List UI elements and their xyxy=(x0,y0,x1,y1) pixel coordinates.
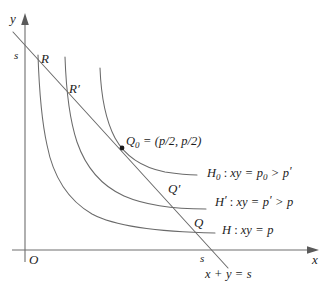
hprime-rhs: p xyxy=(287,195,293,209)
h0-p0-subscript: 0 xyxy=(263,172,268,182)
line-y: y xyxy=(226,267,232,281)
line-label-x-plus-y-equals-s: x + y = s xyxy=(205,268,252,281)
q0-name: Q xyxy=(126,134,135,148)
h0-expression: xy xyxy=(230,166,241,180)
x-axis-tick-s: s xyxy=(200,253,204,264)
h0-rhs-prime: ′ xyxy=(289,164,292,178)
q0-equals: = xyxy=(143,134,152,148)
hprime-equals: = xyxy=(251,195,260,209)
q0-subscript: 0 xyxy=(135,140,140,150)
line-equals: = xyxy=(235,267,244,281)
h0-colon: : xyxy=(224,166,227,180)
point-label-r-prime: R′ xyxy=(69,82,80,95)
h0-subscript: 0 xyxy=(216,172,221,182)
line-x: x xyxy=(205,267,211,281)
hprime-name-prime: ′ xyxy=(224,193,227,207)
curve-h0 xyxy=(100,68,197,175)
curve-label-h-prime: H′ : xy = p′ > p xyxy=(215,195,293,209)
point-label-r: R xyxy=(41,52,49,65)
curve-h-prime xyxy=(65,57,206,209)
hprime-lhs-prime: ′ xyxy=(269,193,272,207)
curve-label-h0: H0 : xy = p0 > p′ xyxy=(207,166,292,182)
figure-container: y x O s s R R′ Q′ Q Q0 = (p/2, p/2) H0 :… xyxy=(0,0,333,297)
point-label-q0-coordinate: Q0 = (p/2, p/2) xyxy=(126,135,201,150)
line-x-plus-y-equals-s xyxy=(13,32,228,268)
curve-label-h: H : xy = p xyxy=(222,224,273,237)
hprime-colon: : xyxy=(230,195,233,209)
hprime-name: H xyxy=(215,195,224,209)
hprime-greater-than: > xyxy=(275,195,284,209)
h0-name: H xyxy=(207,166,216,180)
y-axis-tick-s: s xyxy=(14,50,18,61)
line-plus: + xyxy=(214,267,223,281)
point-label-q-prime: Q′ xyxy=(168,182,180,195)
h-expression: xy xyxy=(241,223,252,237)
point-q0-dot xyxy=(120,146,125,151)
h0-greater-than: > xyxy=(271,166,280,180)
origin-label: O xyxy=(29,253,38,266)
hprime-expression: xy xyxy=(236,195,247,209)
h-equals: = xyxy=(255,223,264,237)
x-axis xyxy=(12,246,319,254)
y-axis xyxy=(21,13,29,262)
point-label-q: Q xyxy=(194,216,203,229)
h-rhs: p xyxy=(267,223,273,237)
h-colon: : xyxy=(234,223,237,237)
line-s: s xyxy=(247,267,252,281)
h0-equals: = xyxy=(245,166,254,180)
q0-value: (p/2, p/2) xyxy=(155,134,202,148)
x-axis-label: x xyxy=(312,253,318,266)
h-name: H xyxy=(222,223,231,237)
y-axis-label: y xyxy=(10,12,16,25)
